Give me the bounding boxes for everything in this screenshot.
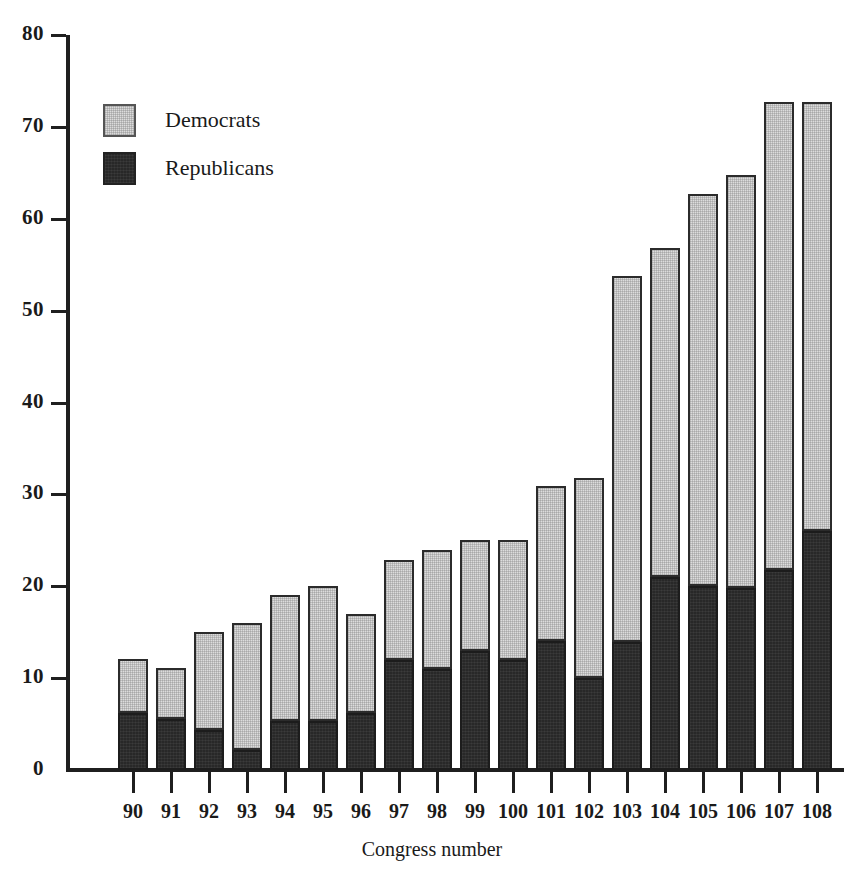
bar-97[interactable] [384, 560, 414, 770]
plot-area: 01020304050607080 9091929394959697989910… [0, 0, 864, 873]
y-tick-label: 80 [0, 21, 44, 46]
bar-segment-republicans[interactable] [422, 669, 452, 770]
x-tick-mark [664, 772, 667, 793]
bar-segment-democrats[interactable] [232, 623, 262, 750]
bar-segment-democrats[interactable] [384, 560, 414, 660]
x-tick-mark [246, 772, 249, 793]
stacked-bar-chart: 01020304050607080 9091929394959697989910… [0, 0, 864, 873]
bar-98[interactable] [422, 550, 452, 771]
x-tick-mark [588, 772, 591, 793]
bar-segment-democrats[interactable] [536, 486, 566, 641]
y-tick-mark [51, 310, 66, 313]
bar-segment-democrats[interactable] [308, 586, 338, 721]
bar-segment-republicans[interactable] [764, 570, 794, 770]
bar-segment-democrats[interactable] [460, 540, 490, 650]
bar-94[interactable] [270, 595, 300, 770]
bar-segment-republicans[interactable] [194, 730, 224, 770]
bar-segment-republicans[interactable] [118, 713, 148, 770]
y-tick-label: 40 [0, 389, 44, 414]
bar-segment-democrats[interactable] [726, 175, 756, 588]
legend-item-democrats: Democrats [103, 96, 363, 144]
bar-91[interactable] [156, 668, 186, 770]
bar-segment-republicans[interactable] [498, 660, 528, 770]
bar-segment-republicans[interactable] [688, 586, 718, 770]
bar-segment-republicans[interactable] [726, 588, 756, 770]
legend-swatch-democrats-icon [103, 104, 136, 137]
x-tick-mark [398, 772, 401, 793]
x-tick-mark [816, 772, 819, 793]
bar-segment-republicans[interactable] [232, 750, 262, 770]
bar-segment-democrats[interactable] [612, 276, 642, 643]
x-tick-mark [474, 772, 477, 793]
bar-105[interactable] [688, 194, 718, 770]
bar-segment-democrats[interactable] [270, 595, 300, 721]
x-tick-mark [550, 772, 553, 793]
bar-segment-democrats[interactable] [802, 102, 832, 531]
bar-103[interactable] [612, 276, 642, 770]
bar-segment-republicans[interactable] [270, 721, 300, 770]
y-tick-mark [51, 493, 66, 496]
bar-segment-republicans[interactable] [650, 577, 680, 770]
bar-96[interactable] [346, 614, 376, 770]
x-tick-mark [284, 772, 287, 793]
y-tick-label: 70 [0, 113, 44, 138]
x-tick-mark [436, 772, 439, 793]
bar-99[interactable] [460, 540, 490, 770]
y-tick-label: 20 [0, 572, 44, 597]
bar-segment-republicans[interactable] [308, 721, 338, 770]
bar-segment-democrats[interactable] [688, 194, 718, 586]
x-axis-title: Congress number [0, 838, 864, 861]
x-tick-mark [132, 772, 135, 793]
y-tick-mark [51, 34, 66, 37]
y-tick-label: 30 [0, 480, 44, 505]
x-tick-mark [740, 772, 743, 793]
y-tick-mark [51, 218, 66, 221]
bar-segment-democrats[interactable] [346, 614, 376, 713]
bar-95[interactable] [308, 586, 338, 770]
bar-segment-democrats[interactable] [118, 659, 148, 713]
bar-segment-republicans[interactable] [536, 641, 566, 770]
bar-segment-republicans[interactable] [156, 719, 186, 770]
x-tick-mark [322, 772, 325, 793]
legend-item-republicans: Republicans [103, 144, 363, 192]
bar-segment-democrats[interactable] [498, 540, 528, 659]
bar-segment-democrats[interactable] [422, 550, 452, 669]
x-tick-mark [208, 772, 211, 793]
bar-101[interactable] [536, 486, 566, 770]
x-tick-mark [778, 772, 781, 793]
y-tick-label: 60 [0, 205, 44, 230]
bar-segment-republicans[interactable] [346, 713, 376, 770]
x-tick-mark [512, 772, 515, 793]
y-tick-mark [51, 677, 66, 680]
bar-108[interactable] [802, 102, 832, 770]
bar-102[interactable] [574, 478, 604, 770]
legend-label-republicans: Republicans [165, 155, 274, 181]
bar-92[interactable] [194, 632, 224, 770]
bar-93[interactable] [232, 623, 262, 770]
bar-segment-democrats[interactable] [194, 632, 224, 730]
bar-segment-republicans[interactable] [574, 678, 604, 770]
y-tick-label: 10 [0, 664, 44, 689]
x-tick-mark [170, 772, 173, 793]
bar-106[interactable] [726, 175, 756, 770]
x-tick-mark [626, 772, 629, 793]
bar-100[interactable] [498, 540, 528, 770]
bar-segment-democrats[interactable] [650, 248, 680, 577]
bar-107[interactable] [764, 102, 794, 770]
chart-legend: Democrats Republicans [103, 96, 363, 192]
bar-104[interactable] [650, 248, 680, 770]
bar-segment-republicans[interactable] [612, 642, 642, 770]
bar-segment-republicans[interactable] [384, 660, 414, 770]
legend-label-democrats: Democrats [165, 107, 260, 133]
x-tick-mark [360, 772, 363, 793]
bar-segment-republicans[interactable] [802, 531, 832, 770]
bar-segment-democrats[interactable] [574, 478, 604, 678]
y-tick-mark [51, 585, 66, 588]
y-tick-label: 0 [0, 756, 44, 781]
bar-segment-democrats[interactable] [156, 668, 186, 719]
bar-segment-republicans[interactable] [460, 651, 490, 770]
bar-90[interactable] [118, 659, 148, 770]
y-tick-label: 50 [0, 297, 44, 322]
legend-swatch-republicans-icon [103, 152, 136, 185]
bar-segment-democrats[interactable] [764, 102, 794, 570]
